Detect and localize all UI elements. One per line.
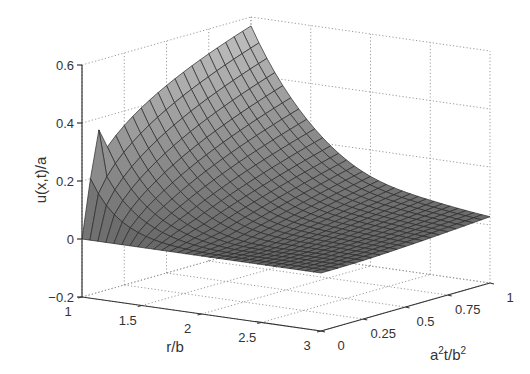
x-tick-label: 1.5	[119, 313, 137, 328]
y-tick-label: 0.5	[416, 314, 434, 329]
y-tick-label: 0.75	[455, 302, 480, 317]
y-axis-label: a2t/b2	[430, 345, 467, 363]
z-tick-label: 0.2	[56, 174, 74, 189]
surface-mesh	[82, 26, 490, 273]
z-tick-label: 0.6	[56, 58, 74, 73]
y-tick-label: 1	[506, 290, 513, 305]
x-axis-label: r/b	[166, 338, 184, 355]
y-tick-label: 0	[337, 338, 344, 353]
surface-plot: −0.200.20.40.611.522.5300.250.50.751 r/b…	[0, 0, 530, 374]
x-tick-label: 1	[64, 304, 71, 319]
z-axis-label: u(x,t)/a	[32, 156, 49, 203]
z-tick-label: 0.4	[56, 116, 74, 131]
x-tick-label: 3	[303, 338, 310, 353]
x-tick-label: 2.5	[238, 330, 256, 345]
z-tick-label: −0.2	[48, 290, 74, 305]
y-tick-label: 0.25	[371, 326, 396, 341]
x-tick-label: 2	[184, 321, 191, 336]
z-tick-label: 0	[67, 232, 74, 247]
